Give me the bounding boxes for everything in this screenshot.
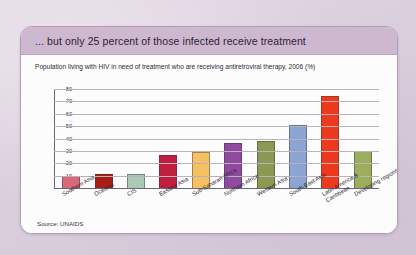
gridline-40 bbox=[54, 139, 379, 140]
gridline-30 bbox=[54, 151, 379, 152]
gridline-70 bbox=[54, 101, 379, 102]
x-axis-category-labels: Southern AsiaOceaniaCISEastern AsiaSub-S… bbox=[55, 189, 380, 233]
bar-western-asia[interactable] bbox=[257, 141, 275, 188]
card-body: Population living with HIV in need of tr… bbox=[21, 55, 397, 234]
gridline-80 bbox=[54, 89, 379, 90]
card-title: ... but only 25 percent of those infecte… bbox=[35, 35, 306, 47]
bar-south-east-asia[interactable] bbox=[289, 125, 307, 188]
gridline-50 bbox=[54, 126, 379, 127]
chart-subtitle: Population living with HIV in need of tr… bbox=[35, 62, 365, 71]
source-note: Source: UNAIDS bbox=[37, 220, 83, 227]
x-label-cis: CIS bbox=[126, 187, 138, 198]
bar-chart: 80706050403020100 Southern AsiaOceaniaCI… bbox=[31, 89, 389, 229]
gridline-60 bbox=[54, 114, 379, 115]
plot-area: 80706050403020100 bbox=[54, 89, 379, 188]
chart-card: ... but only 25 percent of those infecte… bbox=[20, 26, 398, 234]
card-header: ... but only 25 percent of those infecte… bbox=[21, 27, 397, 55]
gridline-20 bbox=[54, 163, 379, 164]
